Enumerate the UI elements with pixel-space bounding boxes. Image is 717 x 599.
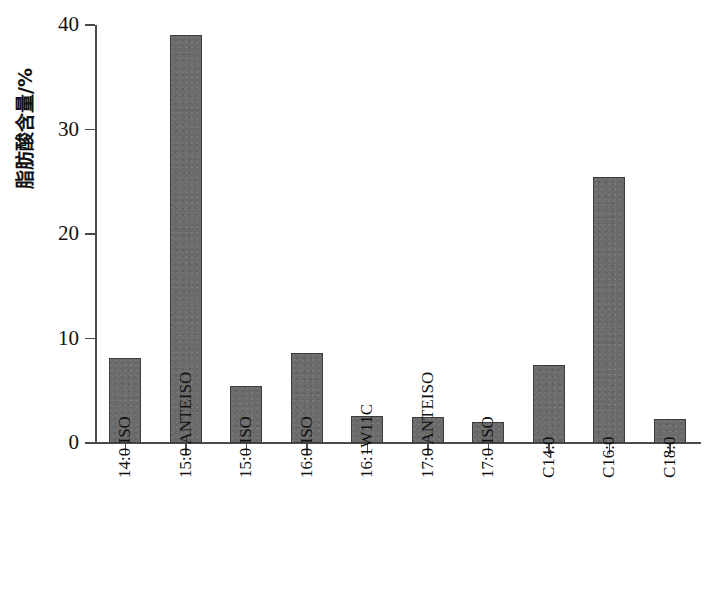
x-axis-tick-label: 17:0 ANTEISO (418, 328, 438, 478)
y-axis-tick (85, 442, 95, 444)
y-axis-tick-label: 40 (19, 14, 79, 35)
y-axis-tick-label: 0 (19, 432, 79, 453)
x-axis-tick-label: 14:0 ISO (115, 328, 135, 478)
y-axis-tick (85, 338, 95, 340)
x-axis-tick-label: C18:0 (660, 328, 680, 478)
y-axis-tick (85, 233, 95, 235)
y-axis-tick-label: 10 (19, 328, 79, 349)
x-axis-tick-label: 16:1W11C (357, 328, 377, 478)
y-axis-line (95, 25, 97, 444)
x-axis-tick-label: 15:0 ANTEISO (176, 328, 196, 478)
y-axis-tick-label: 30 (19, 119, 79, 140)
x-axis-tick-label: 16:0 ISO (297, 328, 317, 478)
y-axis-tick (85, 129, 95, 131)
x-axis-tick-label: C16:0 (599, 328, 619, 478)
x-axis-tick-label: C14:0 (539, 328, 559, 478)
y-axis-tick-label: 20 (19, 223, 79, 244)
x-axis-tick-label: 17:0 ISO (478, 328, 498, 478)
bar-chart: 脂肪酸含量/% 010203040 14:0 ISO15:0 ANTEISO15… (0, 0, 717, 599)
x-axis-tick-label: 15:0 ISO (236, 328, 256, 478)
y-axis-tick (85, 24, 95, 26)
